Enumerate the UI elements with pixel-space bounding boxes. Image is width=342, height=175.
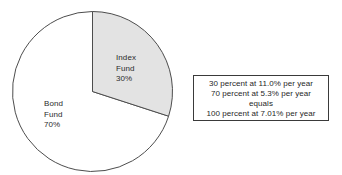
pie-label-bond-fund-name-line2: Fund: [44, 110, 63, 121]
callout-line-equals: equals: [194, 99, 328, 109]
pie-label-index-fund-name-line2: Fund: [116, 64, 136, 75]
pie-label-index-fund-percent: 30%: [116, 74, 136, 85]
callout-line-total: 100 percent at 7.01% per year: [194, 109, 328, 119]
pie-label-bond-fund-percent: 70%: [44, 120, 63, 131]
pie-label-bond-fund-name-line1: Bond: [44, 99, 63, 110]
pie-chart-figure: Index Fund 30% Bond Fund 70% 30 percent …: [0, 0, 342, 175]
pie-label-index-fund: Index Fund 30%: [116, 53, 136, 85]
callout-line-2: 70 percent at 5.3% per year: [194, 89, 328, 99]
callout-line-1: 30 percent at 11.0% per year: [194, 79, 328, 89]
pie-label-index-fund-name-line1: Index: [116, 53, 136, 64]
pie-label-bond-fund: Bond Fund 70%: [44, 99, 63, 131]
weighted-average-callout-box: 30 percent at 11.0% per year 70 percent …: [193, 75, 329, 121]
